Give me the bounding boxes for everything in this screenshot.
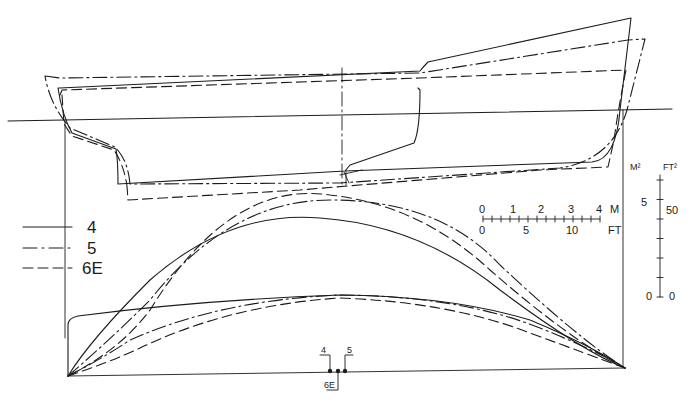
hull-4-profile: [58, 18, 631, 184]
area-unit-metric: M²: [630, 162, 641, 172]
feet-tick-label: 10: [566, 224, 578, 236]
metric-unit-label: M: [610, 203, 619, 215]
profile-view: [8, 18, 672, 368]
area-tick-label-feet: 0: [669, 290, 675, 302]
length-scale: 0 1 2 3 4 M 0 5 10 FT: [479, 203, 622, 236]
metric-tick-label: 4: [596, 203, 602, 215]
beam-curve-6e: [68, 298, 625, 376]
metric-tick-label: 0: [479, 203, 485, 215]
legend: 4 5 6E: [23, 218, 103, 278]
legend-item-4: 4: [23, 218, 96, 237]
feet-tick-label: 0: [479, 224, 485, 236]
area-tick-label-metric: 5: [641, 196, 647, 208]
metric-tick-label: 2: [538, 203, 544, 215]
feet-unit-label: FT: [608, 224, 622, 236]
lcb-leader-4: [320, 355, 330, 371]
area-tick-label-feet: 50: [666, 204, 678, 216]
legend-label: 6E: [82, 259, 103, 278]
legend-label: 4: [87, 218, 96, 237]
lcb-markers: 4 5 6E: [320, 345, 353, 390]
metric-tick-label: 1: [510, 203, 516, 215]
metric-tick-label: 3: [568, 203, 574, 215]
design-waterline: [8, 109, 672, 121]
area-scale: M² FT² 5 50 0 0: [630, 162, 678, 302]
area-unit-feet: FT²: [663, 162, 677, 172]
legend-label: 5: [87, 239, 96, 258]
legend-item-6e: 6E: [23, 259, 103, 278]
feet-tick-label: 5: [523, 224, 529, 236]
hull-6e-profile: [60, 70, 626, 200]
lcb-label-5: 5: [347, 345, 352, 355]
area-tick-label-metric: 0: [646, 290, 652, 302]
legend-item-5: 5: [23, 239, 96, 258]
lcb-label-4: 4: [321, 345, 326, 355]
lcb-leader-5: [345, 355, 353, 371]
hull-drawing: 4 5 6E 0 1 2 3 4 M 0 5 10 FT M² FT² 5 50…: [0, 0, 697, 409]
beam-curve-4: [68, 295, 625, 376]
lcb-label-6e: 6E: [324, 380, 335, 390]
